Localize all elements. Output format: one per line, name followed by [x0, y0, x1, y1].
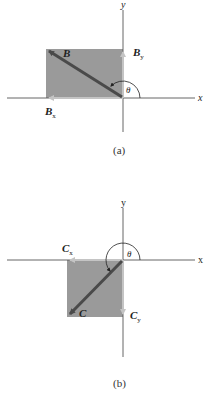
panel-b: y x C Cx Cy θ — [7, 197, 203, 357]
angle-theta-label-b: θ — [127, 249, 132, 259]
y-axis-label-a: y — [120, 0, 126, 10]
vector-c-label: C — [79, 307, 87, 319]
component-cy-label: Cy — [130, 309, 141, 324]
component-by-label: By — [132, 46, 144, 61]
vector-b-label: B — [62, 47, 70, 59]
x-axis-label-a: x — [197, 92, 203, 103]
vector-components-diagram: y x B By Bx θ y x C Cx Cy θ — [0, 0, 217, 399]
caption-a: (a) — [113, 144, 125, 156]
panel-a: y x B By Bx θ — [7, 0, 203, 132]
y-axis-label-b: y — [121, 197, 126, 208]
x-axis-label-b: x — [198, 254, 203, 265]
component-cx-label: Cx — [62, 242, 73, 257]
component-bx-label: Bx — [44, 105, 56, 120]
angle-theta-label-a: θ — [126, 85, 131, 95]
caption-b: (b) — [113, 377, 126, 389]
